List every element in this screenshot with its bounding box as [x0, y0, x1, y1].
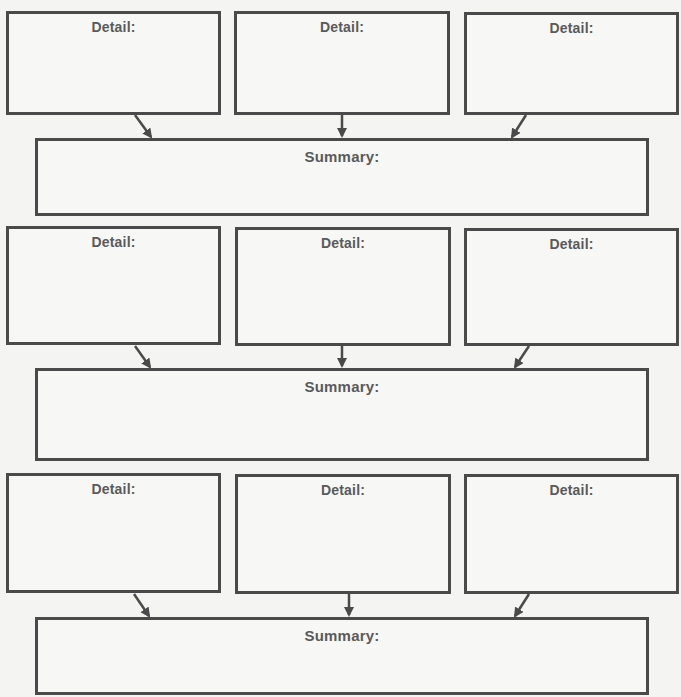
arrow-icon [134, 594, 149, 616]
group-1-detail-1-box[interactable]: Detail: [6, 11, 221, 115]
group-2-detail-3-box[interactable]: Detail: [464, 228, 679, 346]
group-1-detail-3-box[interactable]: Detail: [464, 12, 679, 115]
arrow-icon [135, 346, 150, 367]
group-2-detail-1-box[interactable]: Detail: [6, 226, 221, 345]
group-1-detail-2-box[interactable]: Detail: [234, 11, 450, 115]
detail-label: Detail: [238, 482, 448, 498]
group-3-detail-2-box[interactable]: Detail: [235, 474, 451, 594]
arrow-icon [135, 115, 151, 137]
group-3-detail-3-box[interactable]: Detail: [464, 474, 679, 594]
group-3-detail-1-box[interactable]: Detail: [6, 473, 221, 593]
group-2-detail-2-box[interactable]: Detail: [235, 227, 451, 346]
summary-label: Summary: [38, 627, 646, 644]
group-3-summary-box[interactable]: Summary: [35, 617, 649, 695]
detail-label: Detail: [237, 19, 447, 35]
detail-label: Detail: [9, 234, 218, 250]
detail-label: Detail: [9, 19, 218, 35]
summary-label: Summary: [38, 148, 646, 165]
group-1-summary-box[interactable]: Summary: [35, 138, 649, 216]
detail-label: Detail: [467, 482, 676, 498]
detail-summary-organizer: Detail: Detail: Detail: Summary: Detail:… [0, 0, 681, 697]
detail-label: Detail: [467, 236, 676, 252]
arrow-icon [515, 594, 529, 616]
detail-label: Detail: [467, 20, 676, 36]
summary-label: Summary: [38, 378, 646, 395]
arrow-icon [515, 346, 529, 367]
arrow-icon [512, 115, 526, 137]
group-2-summary-box[interactable]: Summary: [35, 368, 649, 461]
detail-label: Detail: [238, 235, 448, 251]
detail-label: Detail: [9, 481, 218, 497]
